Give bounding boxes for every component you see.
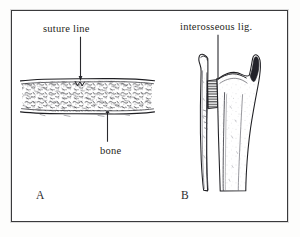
panel-b-artwork <box>162 11 289 221</box>
right-bone <box>217 55 260 191</box>
figure-root: suture line bone A <box>0 0 300 237</box>
interosseous-leader-icon <box>216 35 220 84</box>
left-bone <box>199 54 208 191</box>
plate-frame: suture line bone A <box>11 10 288 222</box>
bone-leader-icon <box>106 108 110 142</box>
panel-b: interosseous lig. B <box>162 11 289 221</box>
interosseous-ligament-band <box>207 80 217 109</box>
bone-slab-illustration <box>21 79 155 117</box>
suture-line-leader-icon <box>79 37 83 81</box>
panel-a: suture line bone A <box>12 11 162 221</box>
panel-a-artwork <box>12 11 162 221</box>
